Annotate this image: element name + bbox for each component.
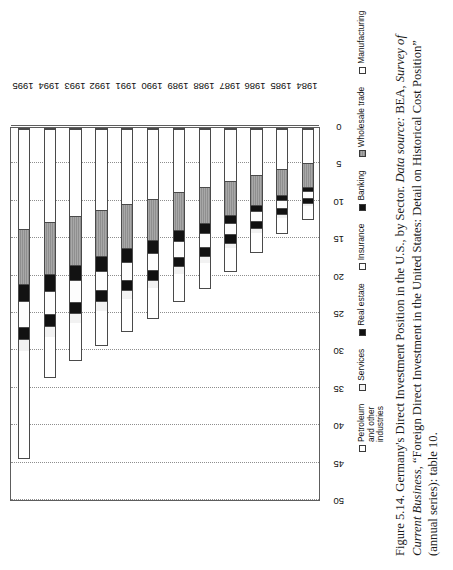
rotated-page-stage: billions of dollars (historical cost) 05… (0, 0, 453, 570)
legend-label-wholesale: Wholesale trade (357, 87, 367, 148)
value-tick-0: 0 (336, 122, 341, 132)
category-tick-1992: 1992 (90, 81, 111, 91)
value-tick-40: 40 (333, 421, 344, 431)
legend-item-insurance[interactable]: Insurance (357, 224, 367, 271)
legend-label-manufacturing: Manufacturing (357, 11, 367, 64)
category-tick-1988: 1988 (193, 81, 214, 91)
caption-datasource-label: Data source: (393, 117, 407, 183)
value-tick-45: 45 (333, 459, 344, 469)
figure-container: billions of dollars (historical cost) 05… (0, 0, 453, 570)
category-tick-1990: 1990 (142, 81, 163, 91)
legend-item-manufacturing[interactable]: Manufacturing (357, 11, 367, 74)
value-tick-25: 25 (333, 309, 344, 319)
chart-area: billions of dollars (historical cost) 05… (10, 127, 350, 525)
value-tick-50: 50 (333, 496, 344, 506)
legend-swatch-wholesale (359, 150, 366, 157)
legend-label-banking: Banking (357, 170, 367, 200)
gridline-0 (11, 125, 319, 126)
category-tick-1986: 1986 (245, 81, 266, 91)
legend-item-petroleum[interactable]: Petroleum and other industries (357, 404, 386, 452)
legend-swatch-petroleum (359, 445, 366, 452)
category-tick-1985: 1985 (271, 81, 292, 91)
category-tick-1991: 1991 (116, 81, 137, 91)
legend-item-realestate[interactable]: Real estate (357, 283, 367, 335)
category-tick-1984: 1984 (297, 81, 318, 91)
legend-label-insurance: Insurance (357, 224, 367, 261)
legend-item-banking[interactable]: Banking (357, 170, 367, 210)
legend-swatch-manufacturing (359, 67, 366, 74)
legend-swatch-realestate (359, 329, 366, 336)
figure-caption: Figure 5.14. Germany's Direct Investment… (392, 16, 442, 556)
caption-part-1: Figure 5.14. Germany's Direct Investment… (393, 183, 407, 556)
legend-item-wholesale[interactable]: Wholesale trade (357, 87, 367, 158)
value-tick-20: 20 (333, 272, 344, 282)
category-tick-1987: 1987 (219, 81, 240, 91)
value-tick-5: 5 (336, 160, 341, 170)
category-tick-1995: 1995 (12, 81, 33, 91)
category-tick-1989: 1989 (167, 81, 188, 91)
legend-label-petroleum: Petroleum and other industries (357, 404, 386, 442)
value-tick-35: 35 (333, 384, 344, 394)
value-tick-15: 15 (333, 234, 344, 244)
category-axis-ticks: 1984198519861987198819891990199119921993… (10, 127, 320, 501)
legend-label-services: Services (357, 349, 367, 381)
legend-item-services[interactable]: Services (357, 349, 367, 391)
category-tick-1993: 1993 (64, 81, 85, 91)
legend-label-realestate: Real estate (357, 283, 367, 325)
value-tick-10: 10 (333, 197, 344, 207)
legend-swatch-insurance (359, 263, 366, 270)
caption-part-2: BEA, (393, 82, 407, 117)
legend-swatch-services (359, 384, 366, 391)
value-tick-30: 30 (333, 347, 344, 357)
legend-swatch-banking (359, 204, 366, 211)
category-tick-1994: 1994 (38, 81, 59, 91)
